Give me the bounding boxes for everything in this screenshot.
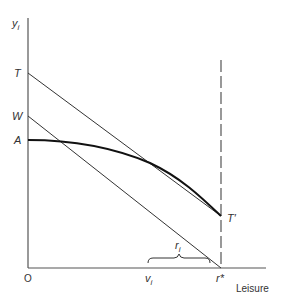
label-W: W <box>12 110 24 122</box>
diagram-canvas: yi T W A T′ ri vi r* O Leisure <box>0 0 281 306</box>
label-r-i: ri <box>175 239 181 254</box>
brace-r-i <box>148 254 210 263</box>
label-r-star: r* <box>216 272 225 284</box>
y-axis-label: yi <box>11 17 20 32</box>
curve-A-to-Tprime <box>28 140 221 216</box>
label-A: A <box>13 134 21 146</box>
x-axis-label: Leisure <box>236 283 269 294</box>
line-T-to-Tprime <box>28 73 221 216</box>
line-W-to-rstar <box>28 116 221 268</box>
label-T: T <box>14 67 22 79</box>
label-v-i: vi <box>145 272 153 287</box>
label-T-prime: T′ <box>227 212 237 224</box>
origin-label: O <box>24 273 32 284</box>
